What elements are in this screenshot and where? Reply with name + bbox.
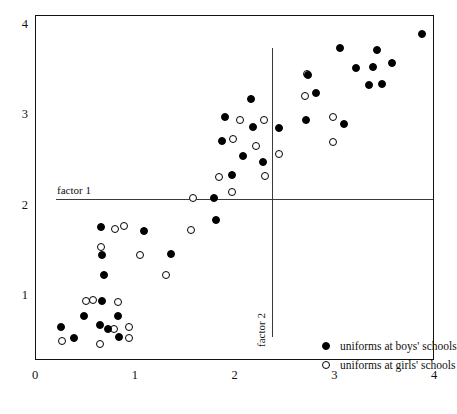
- data-point-girls: [275, 150, 283, 158]
- x-tick-1: 1: [125, 369, 145, 382]
- y-tick-2: 2: [10, 198, 28, 211]
- data-point-girls: [189, 194, 197, 202]
- data-point-boys: [167, 250, 175, 258]
- legend-label-girls: uniforms at girls' schools: [340, 359, 455, 371]
- data-point-boys: [140, 227, 148, 235]
- data-point-boys: [312, 89, 320, 97]
- x-tick-0: 0: [25, 369, 45, 382]
- data-point-girls: [215, 173, 223, 181]
- data-point-girls: [125, 323, 133, 331]
- y-tick-1: 1: [10, 289, 28, 302]
- data-point-girls: [125, 334, 133, 342]
- data-point-boys: [373, 46, 381, 54]
- data-point-boys: [304, 71, 312, 79]
- data-point-boys: [259, 158, 267, 166]
- data-point-girls: [136, 251, 144, 259]
- data-point-boys: [210, 194, 218, 202]
- data-point-boys: [104, 325, 112, 333]
- data-point-girls: [329, 138, 337, 146]
- data-point-boys: [239, 152, 247, 160]
- data-point-girls: [301, 92, 309, 100]
- data-point-girls: [162, 271, 170, 279]
- y-tick-4: 4: [10, 18, 28, 31]
- data-point-boys: [115, 333, 123, 341]
- data-point-boys: [98, 251, 106, 259]
- data-point-boys: [114, 312, 122, 320]
- data-point-boys: [57, 323, 65, 331]
- data-point-boys: [221, 113, 229, 121]
- data-point-girls: [187, 226, 195, 234]
- data-point-boys: [352, 64, 360, 72]
- data-point-girls: [229, 135, 237, 143]
- legend-item-boys: uniforms at boys' schools: [319, 336, 457, 355]
- data-point-girls: [252, 142, 260, 150]
- factor-1-reference-line: [56, 199, 433, 200]
- data-point-boys: [247, 95, 255, 103]
- filled-circle-icon: [319, 339, 333, 353]
- data-point-girls: [329, 113, 337, 121]
- data-point-girls: [89, 296, 97, 304]
- data-point-boys: [378, 80, 386, 88]
- data-point-girls: [97, 243, 105, 251]
- data-point-boys: [96, 321, 104, 329]
- data-point-boys: [275, 124, 283, 132]
- factor-2-label: factor 2: [255, 313, 267, 347]
- data-point-boys: [218, 137, 226, 145]
- data-point-girls: [236, 116, 244, 124]
- data-point-girls: [58, 337, 66, 345]
- factor-2-reference-line: [272, 48, 273, 337]
- data-point-girls: [260, 116, 268, 124]
- legend-label-boys: uniforms at boys' schools: [340, 340, 457, 352]
- data-point-boys: [212, 216, 220, 224]
- data-point-boys: [365, 81, 373, 89]
- data-point-girls: [96, 340, 104, 348]
- data-point-boys: [302, 116, 310, 124]
- data-point-girls: [120, 222, 128, 230]
- data-point-boys: [369, 63, 377, 71]
- open-circle-icon: [319, 358, 333, 372]
- data-point-boys: [70, 334, 78, 342]
- plot-area: factor 1 factor 2 uniforms at boys' scho…: [35, 15, 434, 360]
- data-point-girls: [228, 188, 236, 196]
- legend-item-girls: uniforms at girls' schools: [319, 355, 457, 374]
- data-point-boys: [80, 312, 88, 320]
- x-tick-2: 2: [225, 369, 245, 382]
- data-point-boys: [388, 59, 396, 67]
- data-point-boys: [97, 223, 105, 231]
- data-point-boys: [418, 30, 426, 38]
- data-point-boys: [340, 120, 348, 128]
- legend: uniforms at boys' schools uniforms at gi…: [319, 336, 457, 374]
- y-tick-3: 3: [10, 108, 28, 121]
- data-point-boys: [100, 271, 108, 279]
- data-point-boys: [336, 44, 344, 52]
- data-point-boys: [249, 123, 257, 131]
- factor-1-label: factor 1: [57, 184, 91, 196]
- data-point-boys: [228, 171, 236, 179]
- data-point-girls: [111, 225, 119, 233]
- data-point-boys: [98, 297, 106, 305]
- data-point-girls: [261, 172, 269, 180]
- data-point-girls: [114, 298, 122, 306]
